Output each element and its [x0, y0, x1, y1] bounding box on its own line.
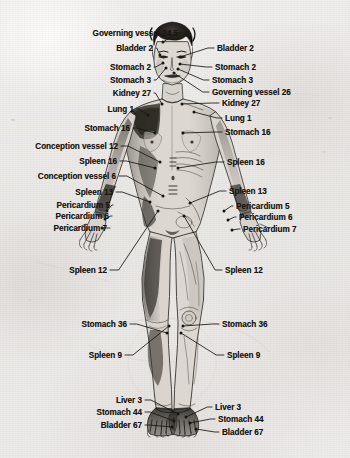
acupoint-label: Stomach 36	[82, 320, 127, 329]
acupoint-label: Spleen 9	[227, 351, 260, 360]
acupoint-label: Spleen 16	[79, 157, 117, 166]
acupoint-label: Kidney 27	[222, 99, 260, 108]
acupoint-label: Kidney 27	[113, 89, 151, 98]
acupoint-label: Bladder 2	[116, 44, 153, 53]
acupoint-label: Stomach 2	[110, 63, 151, 72]
acupoint-label: Bladder 67	[101, 421, 142, 430]
acupoint-label: Governing vessel 26	[212, 88, 291, 97]
acupoint-label: Conception vessel 12	[35, 142, 118, 151]
acupoint-label: Stomach 36	[222, 320, 267, 329]
acupoint-label: Pericardium 7	[243, 225, 297, 234]
acupoint-label: Stomach 44	[97, 408, 142, 417]
acupoint-label: Spleen 13	[75, 188, 113, 197]
acupoint-label: Spleen 12	[69, 266, 107, 275]
acupoint-label: Stomach 44	[218, 415, 263, 424]
acupoint-label: Spleen 9	[89, 351, 122, 360]
acupoint-label: Stomach 2	[215, 63, 256, 72]
acupoint-label: Conception vessel 6	[38, 172, 116, 181]
acupoint-label: Stomach 3	[110, 76, 151, 85]
acupoint-label: Liver 3	[116, 396, 142, 405]
acupoint-label: Liver 3	[215, 403, 241, 412]
acupoint-label: Stomach 16	[85, 124, 130, 133]
acupoint-label: Pericardium 7	[53, 224, 107, 233]
acupoint-label: Spleen 13	[229, 187, 267, 196]
acupoint-label: Spleen 16	[227, 158, 265, 167]
acupoint-label: Pericardium 6	[55, 212, 109, 221]
acupoint-label: Lung 1	[107, 105, 134, 114]
acupoint-label: Governing vessel 24.5	[93, 29, 178, 38]
acupoint-label: Bladder 67	[222, 428, 263, 437]
acupoint-label: Spleen 12	[225, 266, 263, 275]
acupuncture-diagram-page: Governing vessel 24.5Bladder 2Stomach 2S…	[0, 0, 350, 458]
acupoint-label: Bladder 2	[217, 44, 254, 53]
acupoint-label: Stomach 16	[225, 128, 270, 137]
acupoint-label: Pericardium 5	[56, 201, 110, 210]
acupoint-label: Lung 1	[225, 114, 252, 123]
acupoint-label: Stomach 3	[212, 76, 253, 85]
acupoint-label: Pericardium 5	[236, 202, 290, 211]
acupoint-label: Pericardium 6	[239, 213, 293, 222]
